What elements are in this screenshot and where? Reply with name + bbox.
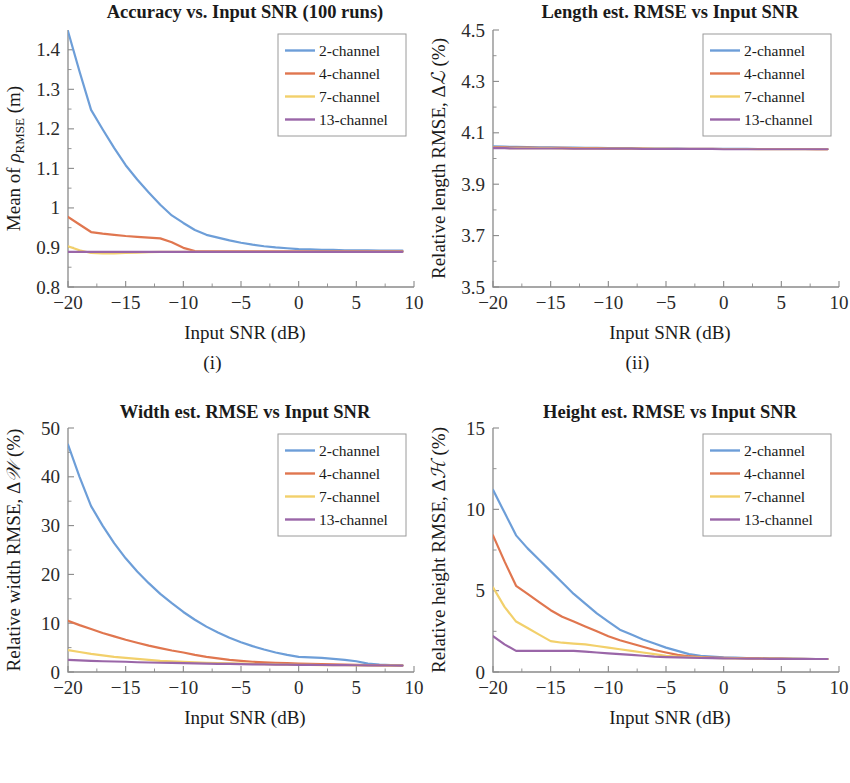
x-tick-label: −15 <box>536 677 566 698</box>
chart-title: Accuracy vs. Input SNR (100 runs) <box>107 2 384 23</box>
legend-label-4-channel[interactable]: 4-channel <box>744 465 805 482</box>
x-tick-label: −10 <box>168 677 198 698</box>
series-line-4-channel <box>68 621 402 666</box>
x-tick-label: −10 <box>593 677 623 698</box>
legend-label-2-channel[interactable]: 2-channel <box>319 442 380 459</box>
legend-label-13-channel[interactable]: 13-channel <box>319 511 388 528</box>
legend-label-13-channel[interactable]: 13-channel <box>744 511 813 528</box>
chart-accuracy: Accuracy vs. Input SNR (100 runs)−20−15−… <box>0 0 425 350</box>
y-axis-label: Mean of ρRMSE (m) <box>3 86 27 231</box>
y-tick-label: 1.2 <box>36 118 60 139</box>
x-tick-label: 10 <box>830 292 849 313</box>
x-axis-label: Input SNR (dB) <box>609 322 730 344</box>
y-tick-label: 0.8 <box>36 277 60 298</box>
series-line-4-channel <box>493 535 827 659</box>
series-line-7-channel <box>493 587 827 659</box>
legend-label-7-channel[interactable]: 7-channel <box>744 488 805 505</box>
y-tick-label: 0.9 <box>36 237 60 258</box>
x-tick-label: 5 <box>352 292 362 313</box>
legend-label-4-channel[interactable]: 4-channel <box>319 465 380 482</box>
panel-caption-ii: (ii) <box>425 352 850 374</box>
x-axis-label: Input SNR (dB) <box>184 322 305 344</box>
x-tick-label: 0 <box>719 292 729 313</box>
chart-title: Width est. RMSE vs Input SNR <box>120 402 371 422</box>
y-tick-label: 20 <box>41 564 60 585</box>
chart-length: Length est. RMSE vs Input SNR−20−15−10−5… <box>425 0 850 350</box>
series-group <box>493 146 827 149</box>
panel-width: Width est. RMSE vs Input SNR−20−15−10−50… <box>0 400 425 783</box>
x-tick-label: 5 <box>352 677 362 698</box>
x-tick-label: −15 <box>536 292 566 313</box>
y-tick-label: 10 <box>466 499 485 520</box>
y-tick-label: 3.7 <box>461 225 485 246</box>
legend-label-7-channel[interactable]: 7-channel <box>319 488 380 505</box>
chart-legend[interactable]: 2-channel4-channel7-channel13-channel <box>278 434 406 536</box>
y-tick-label: 4.5 <box>461 20 485 41</box>
panel-accuracy: Accuracy vs. Input SNR (100 runs)−20−15−… <box>0 0 425 400</box>
x-tick-label: −10 <box>168 292 198 313</box>
y-tick-label: 0 <box>476 662 486 683</box>
legend-label-7-channel[interactable]: 7-channel <box>319 88 380 105</box>
x-tick-label: 10 <box>405 292 424 313</box>
legend-label-13-channel[interactable]: 13-channel <box>744 111 813 128</box>
x-tick-label: −5 <box>656 292 676 313</box>
x-tick-label: −10 <box>593 292 623 313</box>
legend-label-2-channel[interactable]: 2-channel <box>744 442 805 459</box>
y-tick-label: 3.5 <box>461 277 485 298</box>
series-line-13-channel <box>493 148 827 149</box>
x-tick-label: 0 <box>294 677 304 698</box>
x-tick-label: 5 <box>777 677 787 698</box>
legend-label-2-channel[interactable]: 2-channel <box>744 42 805 59</box>
panel-height: Height est. RMSE vs Input SNR−20−15−10−5… <box>425 400 850 783</box>
x-tick-label: −15 <box>111 677 141 698</box>
x-tick-label: 0 <box>719 677 729 698</box>
y-tick-label: 30 <box>41 515 60 536</box>
y-tick-label: 10 <box>41 613 60 634</box>
y-tick-label: 5 <box>476 580 486 601</box>
x-axis-label: Input SNR (dB) <box>609 707 730 729</box>
legend-label-7-channel[interactable]: 7-channel <box>744 88 805 105</box>
y-tick-label: 1.3 <box>36 79 60 100</box>
chart-title: Length est. RMSE vs Input SNR <box>542 2 800 22</box>
y-tick-label: 4.3 <box>461 71 485 92</box>
x-tick-label: 10 <box>830 677 849 698</box>
x-tick-label: −5 <box>231 292 251 313</box>
y-tick-label: 3.9 <box>461 174 485 195</box>
y-tick-label: 0 <box>51 662 61 683</box>
y-tick-label: 4.1 <box>461 122 485 143</box>
x-tick-label: −5 <box>656 677 676 698</box>
figure-grid: Accuracy vs. Input SNR (100 runs)−20−15−… <box>0 0 850 783</box>
y-tick-label: 50 <box>41 418 60 439</box>
x-tick-label: −5 <box>231 677 251 698</box>
legend-label-4-channel[interactable]: 4-channel <box>744 65 805 82</box>
chart-legend[interactable]: 2-channel4-channel7-channel13-channel <box>703 434 831 536</box>
x-tick-label: −15 <box>111 292 141 313</box>
legend-label-2-channel[interactable]: 2-channel <box>319 42 380 59</box>
x-axis-label: Input SNR (dB) <box>184 707 305 729</box>
series-line-4-channel <box>68 217 402 251</box>
legend-label-13-channel[interactable]: 13-channel <box>319 111 388 128</box>
y-tick-label: 15 <box>466 418 485 439</box>
y-tick-label: 1.4 <box>36 39 60 60</box>
y-tick-label: 1 <box>51 197 61 218</box>
y-axis-label: Relative height RMSE, Δℋ (%) <box>428 427 450 673</box>
panel-caption-i: (i) <box>0 352 425 374</box>
panel-length: Length est. RMSE vs Input SNR−20−15−10−5… <box>425 0 850 400</box>
chart-width: Width est. RMSE vs Input SNR−20−15−10−50… <box>0 400 425 735</box>
chart-legend[interactable]: 2-channel4-channel7-channel13-channel <box>278 34 406 136</box>
x-tick-label: 0 <box>294 292 304 313</box>
y-tick-label: 1.1 <box>36 158 60 179</box>
chart-height: Height est. RMSE vs Input SNR−20−15−10−5… <box>425 400 850 735</box>
y-tick-label: 40 <box>41 466 60 487</box>
y-axis-label: Relative length RMSE, Δℒ (%) <box>428 38 450 279</box>
chart-title: Height est. RMSE vs Input SNR <box>543 402 798 422</box>
x-tick-label: 5 <box>777 292 787 313</box>
x-tick-label: 10 <box>405 677 424 698</box>
chart-legend[interactable]: 2-channel4-channel7-channel13-channel <box>703 34 831 136</box>
legend-label-4-channel[interactable]: 4-channel <box>319 65 380 82</box>
y-axis-label: Relative width RMSE, Δ𝒲 (%) <box>3 429 25 672</box>
